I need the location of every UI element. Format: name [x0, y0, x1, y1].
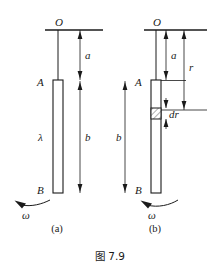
dim-a-label-panel-a: a	[85, 49, 91, 61]
dimension-dr	[164, 98, 169, 129]
pivot-label-a: O	[55, 16, 63, 28]
rod-bottom-label-a: B	[37, 184, 44, 196]
rod-top-label-b: A	[134, 76, 142, 88]
figure-container: O A B λ a b ω (a)	[0, 0, 221, 274]
mass-element-label: dr	[169, 108, 180, 120]
figure-drawing: O A B λ a b ω (a)	[0, 0, 221, 274]
panel-a: O A B λ a b ω (a)	[15, 16, 104, 235]
mass-element-dr	[151, 108, 161, 119]
dimension-b-panel-b	[123, 81, 128, 193]
dimension-a-panel-b	[164, 30, 169, 80]
dim-b-label-panel-b: b	[116, 131, 122, 143]
dimension-b-panel-a	[78, 81, 83, 193]
linear-density-label-a: λ	[37, 131, 43, 143]
rod-top-label-a: A	[36, 76, 44, 88]
panel-caption-b: (b)	[149, 223, 162, 235]
rod-b	[151, 80, 161, 193]
pivot-label-b: O	[153, 16, 161, 28]
rod-bottom-label-b: B	[135, 184, 142, 196]
dimension-a-panel-a	[78, 30, 83, 80]
omega-label-a: ω	[22, 209, 30, 221]
dim-b-label-panel-a: b	[85, 131, 91, 143]
dimension-r	[182, 30, 187, 110]
dim-r-label: r	[189, 61, 194, 73]
rod-a	[53, 80, 63, 193]
dim-a-label-panel-b: a	[171, 49, 177, 61]
panel-caption-a: (a)	[51, 223, 63, 235]
omega-arrow-a	[15, 200, 51, 209]
omega-arrow-b	[141, 200, 179, 209]
omega-label-b: ω	[148, 209, 156, 221]
figure-caption: 图 7.9	[95, 250, 125, 262]
panel-b: O A B a r b dr ω (b)	[116, 16, 207, 235]
